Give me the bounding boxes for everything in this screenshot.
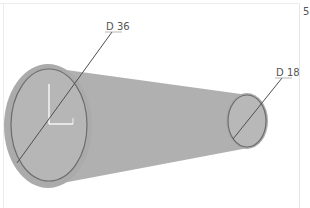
small-diameter-label[interactable]: D 18 <box>276 67 300 78</box>
cone-drawing[interactable]: D 36 D 18 <box>0 0 310 208</box>
cad-viewport[interactable]: 5 D 36 D 18 <box>0 0 310 208</box>
large-diameter-label[interactable]: D 36 <box>106 21 130 32</box>
